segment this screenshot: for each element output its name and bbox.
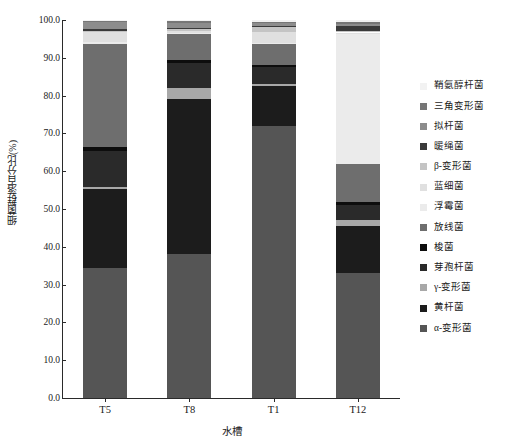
bar-segment[interactable] [336,33,380,35]
bar-group-t12[interactable] [336,20,380,398]
x-axis-tick-label-t8: T8 [184,404,196,415]
y-axis-tick-label: 70.0 [43,128,60,138]
bar-segment[interactable] [252,22,296,24]
legend-item-label: 放线菌 [434,223,464,233]
y-axis-tick-label: 20.0 [43,317,60,327]
legend-item-label: 鞘氨醇杆菌 [434,81,484,91]
legend-item-label: 蓝细菌 [434,182,464,192]
bar-segment[interactable] [252,23,296,26]
bar-segment[interactable] [336,26,380,31]
bar-segment[interactable] [252,86,296,126]
bar-segment[interactable] [336,24,380,26]
bar-segment[interactable] [252,84,296,86]
bar-segment[interactable] [167,88,211,99]
legend-item[interactable]: 浮霉菌 [420,197,512,217]
legend-item[interactable]: 三角变形菌 [420,96,512,116]
bar-segment[interactable] [83,32,127,42]
bar-segment[interactable] [252,67,296,84]
bar-segment[interactable] [252,44,296,65]
legend-swatch-icon [420,284,427,291]
bar-segment[interactable] [252,126,296,398]
bar-segment[interactable] [252,20,296,22]
bar-segment[interactable] [336,22,380,24]
bar-segment[interactable] [83,268,127,398]
x-axis-tick-label-t1: T1 [268,404,280,415]
legend-item[interactable]: 放线菌 [420,217,512,237]
bar-segment[interactable] [83,187,127,190]
legend-swatch-icon [420,163,427,170]
bar-segment[interactable] [336,273,380,398]
bar-segment[interactable] [336,20,380,22]
bar-segment[interactable] [167,60,211,63]
legend-swatch-icon [420,305,427,312]
bar-segment[interactable] [83,29,127,31]
bar-segment[interactable] [83,189,127,268]
y-axis-tick-label: 50.0 [43,204,60,214]
legend-item[interactable]: β-变形菌 [420,157,512,177]
bar-segment[interactable] [336,220,380,226]
legend: 鞘氨醇杆菌三角变形菌拟杆菌暖绳菌β-变形菌蓝细菌浮霉菌放线菌梭菌芽孢杆菌γ-变形… [420,76,512,338]
legend-item[interactable]: γ-变形菌 [420,278,512,298]
bar-segment[interactable] [167,63,211,88]
bar-segment[interactable] [336,202,380,205]
bar-segment[interactable] [336,31,380,33]
bar-segment[interactable] [83,42,127,44]
bar-group-t5[interactable] [83,20,127,398]
legend-item-label: 暖绳菌 [434,142,464,152]
bar-segment[interactable] [252,26,296,28]
legend-item-label: γ-变形菌 [434,283,471,293]
bar-segment[interactable] [336,226,380,273]
bar-segment[interactable] [336,164,380,202]
bar-segment[interactable] [336,34,380,164]
bar-segment[interactable] [167,31,211,33]
bar-segment[interactable] [83,151,127,187]
bar-group-t1[interactable] [252,20,296,398]
legend-item[interactable]: 梭菌 [420,238,512,258]
bar-segment[interactable] [336,205,380,220]
legend-swatch-icon [420,204,427,211]
bar-segment[interactable] [83,147,127,151]
legend-item[interactable]: 蓝细菌 [420,177,512,197]
legend-swatch-icon [420,325,427,332]
bar-segment[interactable] [167,21,211,23]
legend-swatch-icon [420,264,427,271]
bar-segment[interactable] [252,43,296,44]
x-axis-line [62,398,400,399]
bar-stack [252,20,296,398]
legend-item[interactable]: 暖绳菌 [420,137,512,157]
bar-segment[interactable] [167,29,211,31]
bar-segment[interactable] [252,27,296,32]
bar-segment[interactable] [167,34,211,60]
legend-item[interactable]: 黄杆菌 [420,298,512,318]
legend-swatch-icon [420,123,427,130]
y-axis-tick-label: 60.0 [43,166,60,176]
legend-swatch-icon [420,184,427,191]
legend-item-label: 浮霉菌 [434,202,464,212]
y-axis-tick-label: 100.0 [39,15,60,25]
bar-segment[interactable] [167,23,211,28]
bar-segment[interactable] [167,99,211,254]
bar-segment[interactable] [167,254,211,398]
bar-segment[interactable] [252,65,296,67]
bar-segment[interactable] [83,44,127,147]
x-axis-tick-mark [358,398,359,402]
x-axis-tick-label-t12: T12 [349,404,366,415]
bar-group-t8[interactable] [167,20,211,398]
legend-swatch-icon [420,244,427,251]
legend-swatch-icon [420,224,427,231]
bar-segment[interactable] [167,20,211,21]
bar-segment[interactable] [83,31,127,33]
bar-segment[interactable] [167,28,211,30]
y-axis-tick-label: 80.0 [43,91,60,101]
legend-item[interactable]: 鞘氨醇杆菌 [420,76,512,96]
bar-segment[interactable] [252,32,296,43]
bacterial-community-stacked-bar-chart: 细菌群落百分比(%) 0.010.020.030.040.050.060.070… [0,0,512,441]
legend-swatch-icon [420,143,427,150]
legend-item-label: α-变形菌 [434,324,472,334]
legend-item[interactable]: 芽孢杆菌 [420,258,512,278]
bar-segment[interactable] [83,22,127,30]
legend-item[interactable]: 拟杆菌 [420,116,512,136]
bar-segment[interactable] [167,33,211,34]
bar-segment[interactable] [83,20,127,21]
legend-item[interactable]: α-变形菌 [420,318,512,338]
